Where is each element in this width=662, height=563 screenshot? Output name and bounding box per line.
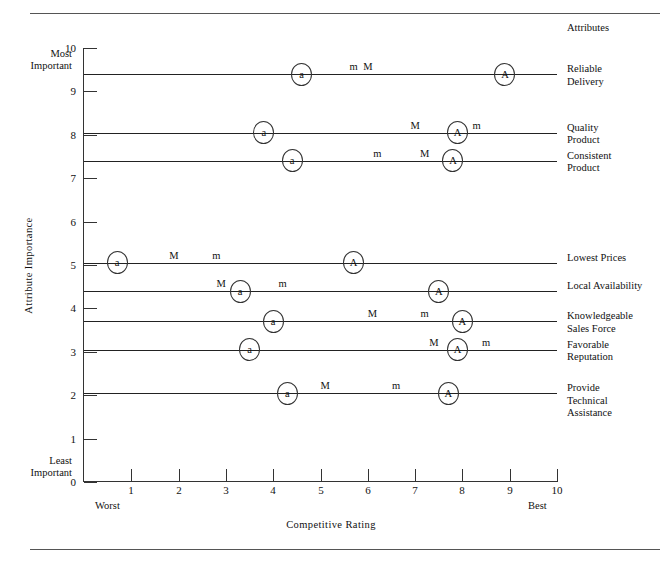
marker-circle-A-row3[interactable]: A <box>343 251 364 274</box>
x-tick-label-4: 4 <box>263 484 283 496</box>
marker-m-row2[interactable]: m <box>369 148 385 159</box>
marker-circle-A-row5[interactable]: A <box>452 310 473 333</box>
attributes-column-heading: Attributes <box>567 22 609 33</box>
marker-M-row3[interactable]: M <box>166 250 182 261</box>
attribute-label-line: Reputation <box>567 351 662 364</box>
x-axis-title: Competitive Rating <box>0 519 662 530</box>
x-tick-6 <box>368 469 369 481</box>
y-tick-3 <box>84 352 97 353</box>
attribute-line-7 <box>84 393 557 394</box>
marker-circle-a-row4[interactable]: a <box>230 280 251 303</box>
y-tick-label-8: 8 <box>50 129 76 141</box>
y-tick-4 <box>84 308 97 309</box>
y-tick-7 <box>84 178 97 179</box>
y-axis-title: Attribute Importance <box>23 191 34 341</box>
marker-circle-a-row5[interactable]: a <box>263 310 284 333</box>
marker-circle-a-row2[interactable]: a <box>282 149 303 172</box>
marker-M-row1[interactable]: M <box>407 120 423 131</box>
y-tick-0 <box>84 482 97 483</box>
marker-m-row6[interactable]: m <box>478 337 494 348</box>
marker-M-row2[interactable]: M <box>417 148 433 159</box>
marker-M-row5[interactable]: M <box>365 308 381 319</box>
x-tick-1 <box>131 469 132 481</box>
attribute-label-line: Sales Force <box>567 323 662 336</box>
x-axis-worst-label: Worst <box>95 500 120 511</box>
marker-M-row7[interactable]: M <box>317 380 333 391</box>
y-tick-label-4: 4 <box>50 302 76 314</box>
x-tick-label-10: 10 <box>547 484 567 496</box>
y-tick-label-9: 9 <box>50 85 76 97</box>
marker-circle-A-row4[interactable]: A <box>428 280 449 303</box>
marker-circle-A-row1[interactable]: A <box>447 121 468 144</box>
attribute-label-line: Provide <box>567 382 662 395</box>
marker-circle-A-row2[interactable]: A <box>442 149 463 172</box>
marker-circle-a-row7[interactable]: a <box>277 382 298 405</box>
attribute-label-5: KnowledgeableSales Force <box>567 310 662 335</box>
attribute-label-line: Delivery <box>567 76 662 89</box>
y-tick-label-7: 7 <box>50 172 76 184</box>
marker-circle-a-row0[interactable]: a <box>291 63 312 86</box>
marker-circle-a-row3[interactable]: a <box>107 251 128 274</box>
x-axis-best-label: Best <box>528 500 547 511</box>
y-tick-label-5: 5 <box>50 259 76 271</box>
marker-m-row7[interactable]: m <box>388 380 404 391</box>
y-tick-label-6: 6 <box>50 216 76 228</box>
attribute-label-1: QualityProduct <box>567 122 662 147</box>
attribute-label-line: Technical <box>567 395 662 408</box>
x-tick-label-5: 5 <box>311 484 331 496</box>
y-tick-5 <box>84 265 97 266</box>
attribute-label-line: Quality <box>567 122 662 135</box>
attribute-label-line: Local Availability <box>567 280 662 293</box>
attribute-label-line: Knowledgeable <box>567 310 662 323</box>
attribute-label-7: ProvideTechnicalAssistance <box>567 382 662 420</box>
marker-m-row4[interactable]: m <box>275 278 291 289</box>
attribute-line-2 <box>84 161 557 162</box>
y-tick-8 <box>84 135 97 136</box>
x-axis-line <box>83 481 558 482</box>
y-tick-label-10: 10 <box>50 42 76 54</box>
x-tick-7 <box>415 469 416 481</box>
x-tick-label-8: 8 <box>452 484 472 496</box>
x-tick-label-7: 7 <box>405 484 425 496</box>
attribute-label-line: Product <box>567 162 662 175</box>
marker-circle-a-row1[interactable]: a <box>253 121 274 144</box>
top-divider-rule <box>30 13 660 14</box>
attribute-label-line: Consistent <box>567 150 662 163</box>
y-tick-10 <box>84 48 97 49</box>
marker-circle-A-row7[interactable]: A <box>438 382 459 405</box>
attribute-label-6: FavorableReputation <box>567 339 662 364</box>
x-tick-label-3: 3 <box>216 484 236 496</box>
attribute-label-4: Local Availability <box>567 280 662 293</box>
x-tick-4 <box>273 469 274 481</box>
y-tick-6 <box>84 222 97 223</box>
attribute-line-4 <box>84 291 557 292</box>
marker-circle-A-row0[interactable]: A <box>494 63 515 86</box>
y-tick-label-1: 1 <box>50 433 76 445</box>
marker-M-row0[interactable]: M <box>360 61 376 72</box>
attribute-label-line: Favorable <box>567 339 662 352</box>
y-tick-label-3: 3 <box>50 346 76 358</box>
marker-M-row4[interactable]: M <box>213 278 229 289</box>
marker-circle-A-row6[interactable]: A <box>447 338 468 361</box>
attribute-line-0 <box>84 74 557 75</box>
x-tick-label-2: 2 <box>169 484 189 496</box>
x-tick-label-6: 6 <box>358 484 378 496</box>
y-tick-2 <box>84 395 97 396</box>
marker-m-row5[interactable]: m <box>417 308 433 319</box>
attribute-line-6 <box>84 350 557 351</box>
y-tick-1 <box>84 439 97 440</box>
attribute-line-1 <box>84 133 557 134</box>
x-tick-10 <box>557 469 558 481</box>
x-tick-8 <box>462 469 463 481</box>
attribute-label-line: Lowest Prices <box>567 252 662 265</box>
attribute-label-3: Lowest Prices <box>567 252 662 265</box>
marker-circle-a-row6[interactable]: a <box>239 338 260 361</box>
attribute-label-line: Assistance <box>567 407 662 420</box>
marker-M-row6[interactable]: M <box>426 337 442 348</box>
marker-m-row3[interactable]: m <box>208 250 224 261</box>
attribute-line-5 <box>84 321 557 322</box>
marker-m-row1[interactable]: m <box>469 120 485 131</box>
y-tick-label-0: 0 <box>50 476 76 488</box>
y-tick-label-2: 2 <box>50 389 76 401</box>
x-tick-3 <box>226 469 227 481</box>
